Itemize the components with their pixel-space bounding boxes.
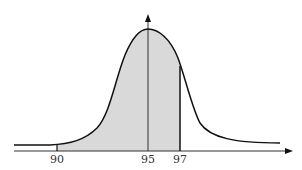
x-axis-arrow-icon (285, 148, 293, 154)
normal-distribution-chart: 90 95 97 (0, 0, 302, 170)
shaded-region (14, 29, 280, 151)
y-axis-arrow-icon (145, 14, 151, 22)
tick-label-95: 95 (141, 153, 155, 166)
tick-label-90: 90 (50, 153, 64, 166)
tick-label-97: 97 (173, 153, 187, 166)
